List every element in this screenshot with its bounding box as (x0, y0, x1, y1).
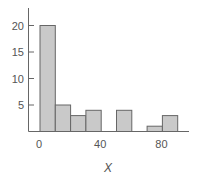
histogram-bar (147, 126, 162, 131)
x-axis-title: X (103, 161, 113, 175)
y-tick-label: 5 (18, 99, 24, 111)
y-axis-ticks: 5101520 (12, 20, 34, 112)
y-tick-label: 20 (12, 20, 24, 32)
histogram-bar (117, 110, 132, 131)
histogram-bar (40, 26, 55, 132)
y-tick-label: 15 (12, 46, 24, 58)
x-tick-label: 0 (36, 138, 42, 150)
y-tick-label: 10 (12, 73, 24, 85)
histogram-chart: 5101520 04080 X (0, 0, 202, 183)
x-tick-label: 80 (155, 138, 167, 150)
histogram-bar (55, 105, 70, 132)
histogram-bar (162, 116, 177, 132)
x-tick-label: 40 (94, 138, 106, 150)
histogram-bar (71, 116, 86, 132)
histogram-bar (86, 110, 101, 131)
histogram-bars (40, 26, 178, 132)
x-axis-ticks: 04080 (36, 138, 168, 150)
